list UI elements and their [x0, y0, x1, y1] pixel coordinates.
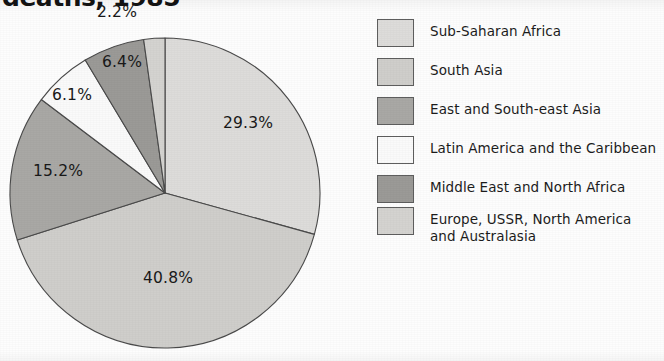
- pie-chart-svg: 29.3%40.8%15.2%6.1%6.4%2.2%: [0, 0, 360, 361]
- legend-item-label: Europe, USSR, North America and Australa…: [430, 206, 631, 245]
- legend-item-label: Middle East and North Africa: [430, 174, 625, 196]
- legend-item-label: East and South-east Asia: [430, 96, 601, 118]
- pie-slice-label: 6.4%: [102, 53, 142, 71]
- pie-slice-label: 29.3%: [223, 114, 273, 132]
- legend-item-sub-saharan-africa[interactable]: Sub-Saharan Africa: [377, 18, 664, 48]
- pie-slice-label: 15.2%: [33, 162, 83, 180]
- legend-item-label: Sub-Saharan Africa: [430, 18, 561, 40]
- legend-item-south-asia[interactable]: South Asia: [377, 57, 664, 87]
- legend-item-middle-east-and-north-africa[interactable]: Middle East and North Africa: [377, 174, 664, 204]
- pie-chart: 29.3%40.8%15.2%6.1%6.4%2.2%: [0, 0, 360, 361]
- legend-item-latin-america-and-the-caribbean[interactable]: Latin America and the Caribbean: [377, 135, 664, 165]
- legend-item-label: Latin America and the Caribbean: [430, 135, 656, 157]
- legend-item-east-and-south-east-asia[interactable]: East and South-east Asia: [377, 96, 664, 126]
- legend-item-europe-ussr-north-america-and-australasia[interactable]: Europe, USSR, North America and Australa…: [377, 206, 664, 245]
- legend-swatch-icon: [377, 19, 414, 47]
- legend-swatch-icon: [377, 58, 414, 86]
- legend: Sub-Saharan Africa South Asia East and S…: [377, 18, 664, 254]
- legend-swatch-icon: [377, 175, 414, 203]
- legend-swatch-icon: [377, 207, 414, 235]
- pie-slice-label: 6.1%: [52, 86, 92, 104]
- pie-slice-label: 2.2%: [97, 3, 137, 21]
- pie-slice-label: 40.8%: [143, 269, 193, 287]
- legend-item-label: South Asia: [430, 57, 503, 79]
- pie-slice-group: [10, 38, 320, 348]
- figure-page: deaths, 1985 29.3%40.8%15.2%6.1%6.4%2.2%…: [0, 0, 664, 361]
- legend-swatch-icon: [377, 136, 414, 164]
- legend-swatch-icon: [377, 97, 414, 125]
